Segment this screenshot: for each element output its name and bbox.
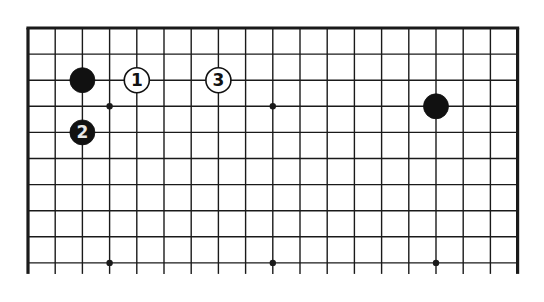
star-point-icon: [106, 103, 112, 109]
black-stone: [70, 68, 95, 93]
move-number-label: 3: [212, 70, 224, 90]
white-stone-move-1: 1: [124, 68, 149, 93]
board-grid: [26, 28, 519, 274]
star-point-icon: [270, 260, 276, 266]
star-point-icon: [106, 260, 112, 266]
move-number-label: 1: [131, 70, 143, 90]
go-board: 132: [0, 0, 544, 302]
move-number-label: 2: [76, 122, 88, 142]
black-stone-move-2: 2: [70, 120, 95, 145]
star-point-icon: [270, 103, 276, 109]
star-point-icon: [433, 260, 439, 266]
white-stone-move-3: 3: [206, 68, 231, 93]
black-stone: [424, 94, 449, 119]
